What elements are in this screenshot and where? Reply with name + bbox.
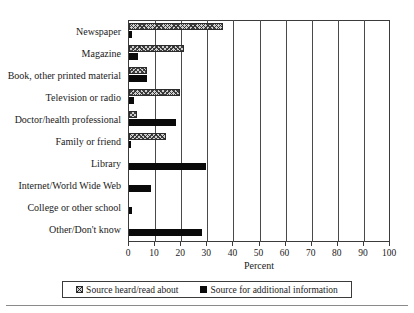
- bar-row: [129, 21, 390, 43]
- x-axis-tick-label: 60: [280, 246, 290, 260]
- bar-row: [129, 175, 390, 197]
- bar-source-additional-information: [129, 185, 151, 192]
- bar-source-heard-read-about: [129, 111, 137, 118]
- hatched-square-icon: [76, 286, 83, 293]
- x-axis-tick-label: 70: [306, 246, 316, 260]
- bar-row: [129, 153, 390, 175]
- chart-legend: Source heard/read about Source for addit…: [62, 281, 352, 298]
- bar-row: [129, 43, 390, 65]
- bar-source-additional-information: [129, 163, 206, 170]
- bar-source-additional-information: [129, 75, 147, 82]
- y-axis-label: Magazine: [0, 43, 125, 65]
- legend-label: Source for additional information: [210, 285, 337, 295]
- legend-item-additional-information: Source for additional information: [200, 285, 337, 295]
- y-axis-label: Doctor/health professional: [0, 109, 125, 131]
- x-axis-tick-label: 0: [126, 246, 131, 260]
- x-axis-tick-label: 50: [254, 246, 264, 260]
- x-axis-tick-label: 10: [149, 246, 159, 260]
- bar-row: [129, 65, 390, 87]
- y-axis-label: College or other school: [0, 197, 125, 219]
- legend-item-heard-read-about: Source heard/read about: [76, 285, 178, 295]
- x-axis-tick-label: 30: [202, 246, 212, 260]
- bar-row: [129, 131, 390, 153]
- y-axis-label: Family or friend: [0, 131, 125, 153]
- y-axis-label: Other/Don't know: [0, 219, 125, 241]
- bar-source-heard-read-about: [129, 45, 184, 52]
- plot-area: [128, 20, 390, 242]
- bar-source-heard-read-about: [129, 133, 166, 140]
- y-axis-category-labels: Newspaper Magazine Book, other printed m…: [0, 21, 125, 241]
- x-axis-tick-label: 100: [382, 246, 396, 260]
- bar-source-additional-information: [129, 119, 176, 126]
- bar-source-additional-information: [129, 97, 134, 104]
- x-axis-tick-label: 40: [228, 246, 238, 260]
- bar-source-additional-information: [129, 53, 138, 60]
- bar-source-additional-information: [129, 229, 202, 236]
- y-axis-label: Book, other printed material: [0, 65, 125, 87]
- x-axis-title: Percent: [128, 260, 390, 271]
- bar-row: [129, 109, 390, 131]
- bar-source-additional-information: [129, 31, 132, 38]
- solid-square-icon: [200, 286, 207, 293]
- y-axis-label: Internet/World Wide Web: [0, 175, 125, 197]
- legend-label: Source heard/read about: [86, 285, 178, 295]
- bar-row: [129, 219, 390, 241]
- bar-source-heard-read-about: [129, 67, 147, 74]
- x-axis-tick-label: 90: [358, 246, 368, 260]
- y-axis-label: Newspaper: [0, 21, 125, 43]
- bar-source-heard-read-about: [129, 89, 180, 96]
- bar-source-additional-information: [129, 141, 131, 148]
- chart-figure: Newspaper Magazine Book, other printed m…: [0, 0, 414, 313]
- bar-rows: [129, 21, 390, 241]
- y-axis-label: Television or radio: [0, 87, 125, 109]
- x-axis-tick-label: 20: [175, 246, 185, 260]
- bar-row: [129, 197, 390, 219]
- x-axis-tick-labels: 0102030405060708090100: [128, 246, 390, 260]
- x-axis-tick-label: 80: [332, 246, 342, 260]
- bar-source-heard-read-about: [129, 23, 223, 30]
- footer-divider: [6, 305, 408, 306]
- y-axis-label: Library: [0, 153, 125, 175]
- bar-source-additional-information: [129, 207, 132, 214]
- bar-row: [129, 87, 390, 109]
